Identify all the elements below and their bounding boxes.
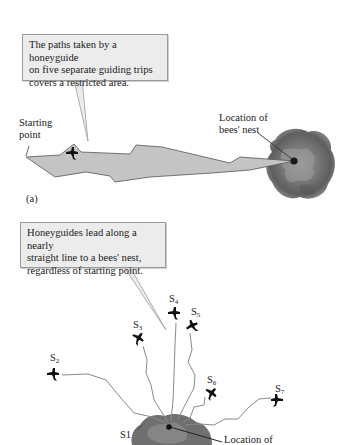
nest-label-a: Location of bees' nest (219, 112, 268, 136)
label-s1: S1 (120, 429, 131, 441)
callout-a: The paths taken by a honeyguide on five … (22, 34, 168, 81)
callout-a-line-1: The paths taken by a honeyguide (29, 39, 161, 64)
starting-point-leader (26, 146, 29, 156)
label-s4: S4 (169, 293, 178, 308)
label-s3-sub: 3 (139, 324, 143, 332)
starting-point-label: Starting point (19, 117, 52, 141)
callout-b-line-3: regardless of starting point. (27, 265, 159, 278)
bird-s2-icon (47, 368, 59, 381)
bird-s4-icon (168, 307, 180, 320)
restricted-area-polygon (26, 144, 294, 182)
callout-a-line-3: covers a restricted area. (29, 77, 161, 90)
label-s3: S3 (133, 319, 142, 334)
label-s5-sub: 5 (197, 311, 201, 319)
callout-b: Honeyguides lead along a nearly straight… (20, 222, 166, 268)
path-s4 (171, 323, 176, 422)
panel-a-label: (a) (26, 193, 38, 205)
path-s2 (62, 374, 166, 423)
label-s1-base: S1 (120, 429, 131, 440)
nest-label-b: Location of (224, 434, 273, 445)
nest-location-dot-a (290, 157, 297, 164)
label-s4-sub: 4 (175, 298, 179, 306)
callout-b-line-1: Honeyguides lead along a nearly (27, 227, 159, 252)
path-s5 (178, 333, 195, 419)
label-s5: S5 (191, 306, 200, 321)
label-s7-sub: 7 (281, 388, 285, 396)
path-s7 (185, 398, 271, 425)
callout-b-line-2: straight line to a bees' nest, (27, 252, 159, 265)
callout-a-line-2: on five separate guiding trips (29, 64, 161, 77)
label-s2: S2 (50, 352, 59, 367)
label-s6: S6 (207, 374, 216, 389)
starting-point-line-1: Starting (19, 117, 52, 129)
label-s2-sub: 2 (56, 357, 60, 365)
nest-location-dot-b (166, 424, 172, 430)
nest-label-a-line-1: Location of (219, 112, 268, 124)
starting-point-line-2: point (19, 129, 52, 141)
label-s7: S7 (275, 383, 284, 398)
label-s6-sub: 6 (213, 379, 217, 387)
path-s3 (143, 346, 168, 422)
guiding-paths (62, 323, 271, 425)
nest-label-a-line-2: bees' nest (219, 124, 268, 136)
